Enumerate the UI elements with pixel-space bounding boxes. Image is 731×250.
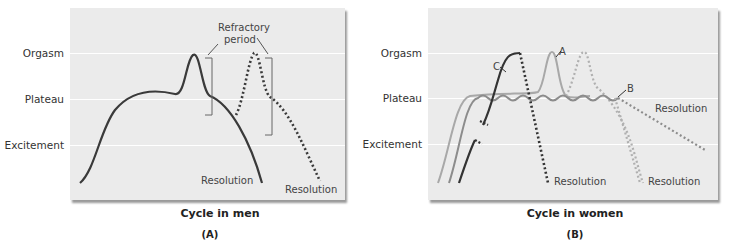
refractory-pointer-2 bbox=[257, 38, 268, 54]
women-curve-c-excitement-dots bbox=[475, 121, 488, 144]
women-curve-b bbox=[449, 96, 618, 184]
women-curve-c bbox=[459, 53, 520, 183]
men-second-cycle-dotted bbox=[236, 53, 320, 181]
women-curve-b-dotted bbox=[618, 98, 705, 150]
leader-a bbox=[556, 51, 561, 57]
women-curve-a bbox=[438, 52, 590, 183]
women-curve-b-dotted-2 bbox=[615, 98, 640, 183]
leader-b bbox=[618, 90, 626, 97]
women-curve-a-dotted bbox=[566, 52, 643, 183]
refractory-bracket-1 bbox=[205, 58, 212, 115]
response-curves bbox=[0, 0, 731, 250]
men-cycle-curve bbox=[80, 55, 262, 183]
refractory-pointer-1 bbox=[208, 44, 218, 55]
